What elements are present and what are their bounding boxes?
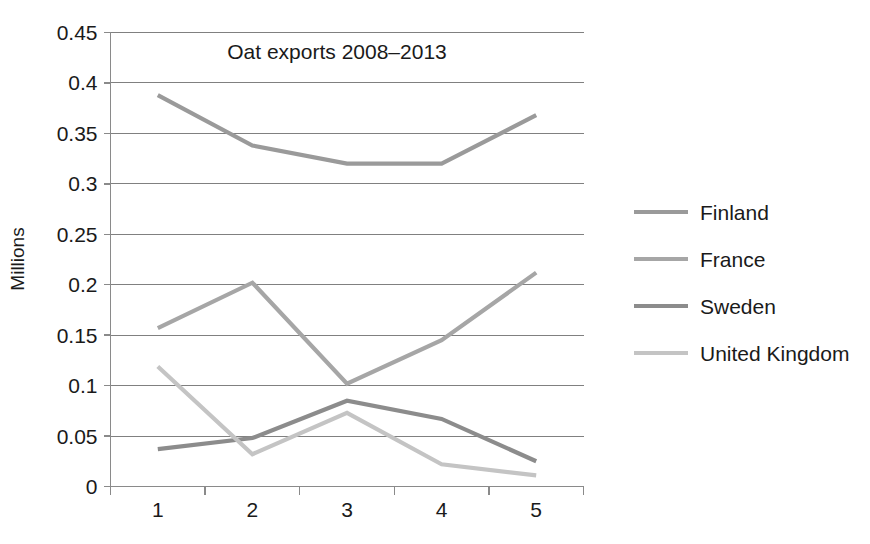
series-line-finland (158, 95, 536, 164)
legend-item-finland: Finland (634, 201, 769, 224)
legend-item-sweden: Sweden (634, 295, 776, 318)
data-series (158, 95, 536, 475)
y-axis-tick-label: 0.35 (57, 122, 98, 145)
x-axis-tick-marks (111, 487, 584, 495)
y-axis-title: Millions (7, 227, 28, 290)
y-axis-tick-label: 0.45 (57, 21, 98, 44)
y-axis-tick-label: 0 (86, 475, 98, 498)
legend-label-france: France (700, 248, 765, 271)
y-axis-tick-labels: 00.050.10.150.20.250.30.350.40.45 (57, 21, 98, 498)
legend: FinlandFranceSwedenUnited Kingdom (634, 201, 849, 365)
y-axis-tick-label: 0.4 (68, 71, 98, 94)
legend-label-finland: Finland (700, 201, 769, 224)
y-axis-tick-label: 0.2 (68, 273, 97, 296)
y-axis-tick-label: 0.3 (68, 172, 97, 195)
legend-item-france: France (634, 248, 765, 271)
x-axis-tick-label: 1 (152, 498, 164, 521)
chart-title: Oat exports 2008–2013 (227, 40, 447, 63)
y-axis-tick-label: 0.15 (57, 324, 98, 347)
chart-canvas: 00.050.10.150.20.250.30.350.40.45 12345 … (0, 0, 870, 544)
legend-item-united-kingdom: United Kingdom (634, 342, 849, 365)
series-line-france (158, 273, 536, 384)
x-axis-tick-label: 3 (341, 498, 353, 521)
y-axis-tick-label: 0.1 (68, 374, 97, 397)
x-axis-tick-label: 4 (436, 498, 448, 521)
x-axis-tick-labels: 12345 (152, 498, 542, 521)
y-axis-tick-marks (104, 33, 111, 487)
legend-label-united-kingdom: United Kingdom (700, 342, 849, 365)
series-line-sweden (158, 401, 536, 462)
line-chart: 00.050.10.150.20.250.30.350.40.45 12345 … (0, 0, 870, 544)
legend-label-sweden: Sweden (700, 295, 776, 318)
gridlines (111, 33, 584, 437)
x-axis-tick-label: 2 (247, 498, 259, 521)
y-axis-tick-label: 0.05 (57, 425, 98, 448)
x-axis-tick-label: 5 (530, 498, 542, 521)
y-axis-tick-label: 0.25 (57, 223, 98, 246)
